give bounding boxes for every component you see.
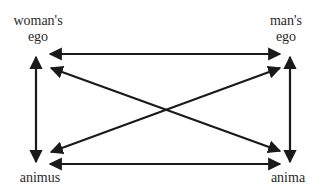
arrows-canvas — [0, 0, 323, 190]
